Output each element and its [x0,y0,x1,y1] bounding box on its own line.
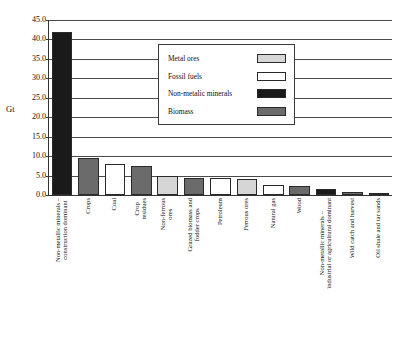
bar-slot [102,20,128,195]
x-axis-label-slot: Natural gas [259,198,285,348]
legend-item[interactable]: Non-metalic minerals [168,85,286,103]
x-axis-tick-label: Wood [295,198,302,214]
x-axis-tick-label: Non-ferrousores [159,198,174,230]
x-axis-label-line: Wild catch and harvest [348,198,355,258]
bar-slot [339,20,365,195]
x-axis-label-line: construction dominant [61,198,68,262]
x-axis-tick-label: Coal [110,198,117,210]
x-axis-label-line: Oil shale and tar sands [374,198,381,258]
x-axis-tick-label: Cropresidues [133,198,148,220]
x-axis-label-line: ores [167,198,174,230]
legend-item[interactable]: Biomass [168,103,286,121]
x-axis-label-line: Coal [110,198,117,210]
x-axis-label-slot: Cropresidues [127,198,153,348]
legend-item-label: Metal ores [168,54,199,63]
legend-item[interactable]: Fossil fuels [168,68,286,86]
x-axis-tick-label: Grazed biomass andfodder crops [186,198,201,251]
x-axis-label-line: Grazed biomass and [186,198,193,251]
chart-legend: Metal oresFossil fuelsNon-metalic minera… [158,44,295,125]
legend-item-swatch [257,89,286,98]
bar-chart: Gt 45.040.035.030.025.020.015.010.05.00.… [0,0,398,362]
x-axis-label-line: Petroleum [216,198,223,225]
x-axis-label-line: Crops [84,198,91,214]
bar[interactable] [52,32,73,195]
bar[interactable] [105,164,126,195]
x-axis-label-slot: Wood [286,198,312,348]
y-axis-tick-label: 15.0 [32,133,46,141]
y-axis-tickmark [46,195,50,196]
legend-item-label: Fossil fuels [168,72,202,81]
x-axis-tick-label: Oil shale and tar sands [374,198,381,258]
bar[interactable] [316,189,337,195]
x-axis-tick-label: Wild catch and harvest [348,198,355,258]
x-axis-label-line: industrial or agricultural dominant [325,198,332,289]
y-axis-tick-label: 25.0 [32,94,46,102]
x-axis-label-line: residues [140,198,147,220]
x-axis-label-slot: Non-metallic minerals –construction domi… [48,198,74,348]
bar[interactable] [210,178,231,195]
x-axis-label-line: Non-metallic minerals – [54,198,61,262]
y-axis-tick-label: 30.0 [32,74,46,82]
bar-slot [75,20,101,195]
y-axis-tick-label: 45.0 [32,16,46,24]
bar[interactable] [289,186,310,195]
x-axis-label-line: Wood [295,198,302,214]
x-axis-label-slot: Crops [74,198,100,348]
x-axis-label-line: Ferrous ores [242,198,249,231]
x-axis-label-slot: Non-metallic minerals –industrial or agr… [312,198,338,348]
bar[interactable] [184,178,205,196]
x-axis-label-slot: Ferrous ores [233,198,259,348]
y-axis-tick-label: 10.0 [32,152,46,160]
x-axis-label-slot: Coal [101,198,127,348]
x-axis-tick-label: Ferrous ores [242,198,249,231]
legend-item-label: Non-metalic minerals [168,89,232,98]
bar-slot [313,20,339,195]
bar-slot [49,20,75,195]
y-axis-tick-label: 35.0 [32,55,46,63]
x-axis-label-slot: Petroleum [206,198,232,348]
y-axis-tick-label: 20.0 [32,113,46,121]
bar[interactable] [157,176,178,195]
x-axis-label-line: Natural gas [269,198,276,228]
x-axis-tick-labels: Non-metallic minerals –construction domi… [48,198,391,348]
x-axis-tick-label: Petroleum [216,198,223,225]
legend-item-swatch [257,72,286,81]
x-axis-label-slot: Wild catch and harvest [338,198,364,348]
bar[interactable] [78,158,99,195]
y-axis-tick-labels: 45.040.035.030.025.020.015.010.05.00.0 [14,20,46,195]
bar-slot [128,20,154,195]
bar[interactable] [369,193,390,195]
bar[interactable] [342,192,363,196]
legend-item-label: Biomass [168,107,193,116]
x-axis-tick-label: Non-metallic minerals –construction domi… [54,198,69,262]
x-axis-label-slot: Non-ferrousores [154,198,180,348]
x-axis-label-line: fodder crops [193,198,200,251]
x-axis-tick-label: Natural gas [269,198,276,228]
y-axis-tick-label: 5.0 [36,172,46,180]
bar[interactable] [237,179,258,195]
x-axis-label-line: Crop [133,198,140,220]
x-axis-label-line: Non-metallic minerals – [318,198,325,289]
legend-item-swatch [257,107,286,116]
bar[interactable] [131,166,152,195]
bar[interactable] [263,185,284,195]
x-axis-tick-label: Crops [84,198,91,214]
x-axis-tick-label: Non-metallic minerals –industrial or agr… [318,198,333,289]
x-axis-label-slot: Grazed biomass andfodder crops [180,198,206,348]
y-axis-tick-label: 0.0 [36,191,46,199]
bar-slot [366,20,392,195]
y-axis-tick-label: 40.0 [32,35,46,43]
legend-item[interactable]: Metal ores [168,50,286,68]
legend-item-swatch [257,54,286,63]
x-axis-label-slot: Oil shale and tar sands [365,198,391,348]
